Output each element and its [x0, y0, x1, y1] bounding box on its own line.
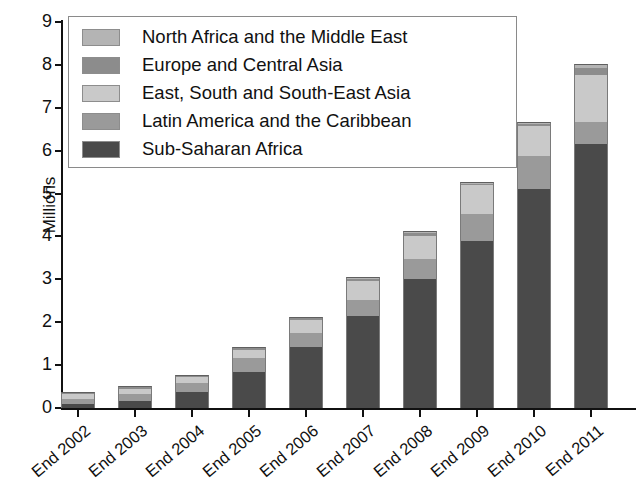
bar-segment [403, 236, 437, 258]
bar-end-2009 [460, 182, 494, 408]
legend-item-label: North Africa and the Middle East [142, 28, 407, 47]
bar-end-2005 [232, 347, 266, 408]
y-tick-label: 5 [26, 184, 52, 202]
bar-segment [574, 122, 608, 144]
legend-item: North Africa and the Middle East [69, 23, 516, 51]
legend-swatch-icon [82, 29, 120, 46]
bar-segment [346, 300, 380, 316]
y-tick-label: 0 [26, 398, 52, 416]
bar-segment [118, 394, 152, 401]
bar-segment [517, 126, 551, 156]
legend-swatch-icon [82, 113, 120, 130]
bar-segment [574, 75, 608, 122]
x-tick-mark [476, 410, 478, 417]
legend-swatch-icon [82, 141, 120, 158]
bar-segment [460, 214, 494, 241]
x-tick-mark [362, 410, 364, 417]
legend-item: Latin America and the Caribbean [69, 107, 516, 135]
legend-item: East, South and South-East Asia [69, 79, 516, 107]
bar-chart: Millions 0123456789 End 2002End 2003End … [0, 0, 639, 485]
bar-segment [175, 392, 209, 408]
x-tick-mark [77, 410, 79, 417]
bar-segment [61, 404, 95, 408]
bar-segment [232, 372, 266, 408]
bar-segment [289, 347, 323, 408]
bar-end-2010 [517, 122, 551, 408]
legend-item-label: East, South and South-East Asia [142, 84, 410, 103]
x-tick-mark [248, 410, 250, 417]
bar-segment [403, 279, 437, 408]
y-tick-label: 9 [26, 12, 52, 30]
bar-segment [517, 189, 551, 408]
x-tick-mark [191, 410, 193, 417]
legend-item-label: Europe and Central Asia [142, 56, 343, 75]
bar-segment [232, 358, 266, 372]
y-tick-label: 7 [26, 98, 52, 116]
bar-segment [517, 156, 551, 189]
bar-segment [232, 350, 266, 358]
bar-segment [403, 259, 437, 280]
bar-end-2003 [118, 386, 152, 408]
y-tick-label: 3 [26, 269, 52, 287]
bar-end-2007 [346, 277, 380, 408]
bar-segment [460, 185, 494, 213]
x-tick-mark [419, 410, 421, 417]
y-axis-title: Millions [40, 145, 60, 265]
bar-segment [460, 241, 494, 408]
bar-end-2004 [175, 375, 209, 408]
y-tick-label: 8 [26, 55, 52, 73]
x-tick-mark [134, 410, 136, 417]
bar-segment [346, 316, 380, 408]
bar-segment [118, 401, 152, 408]
x-axis-line [61, 408, 636, 410]
y-tick-label: 6 [26, 141, 52, 159]
bar-end-2006 [289, 317, 323, 408]
bar-segment [175, 383, 209, 392]
bar-end-2002 [61, 392, 95, 408]
bar-end-2008 [403, 231, 437, 408]
legend-swatch-icon [82, 85, 120, 102]
legend-item-label: Sub-Saharan Africa [142, 140, 302, 159]
x-tick-mark [590, 410, 592, 417]
y-tick-label: 2 [26, 312, 52, 330]
x-tick-mark [533, 410, 535, 417]
legend-item: Sub-Saharan Africa [69, 135, 516, 163]
bar-segment [346, 281, 380, 300]
bar-segment [289, 320, 323, 333]
bar-segment [289, 333, 323, 347]
legend-item: Europe and Central Asia [69, 51, 516, 79]
bar-segment [574, 144, 608, 408]
chart-legend: North Africa and the Middle EastEurope a… [68, 16, 517, 168]
y-tick-label: 4 [26, 226, 52, 244]
x-tick-mark [305, 410, 307, 417]
legend-swatch-icon [82, 57, 120, 74]
legend-item-label: Latin America and the Caribbean [142, 112, 411, 131]
y-tick-label: 1 [26, 355, 52, 373]
bar-end-2011 [574, 64, 608, 408]
